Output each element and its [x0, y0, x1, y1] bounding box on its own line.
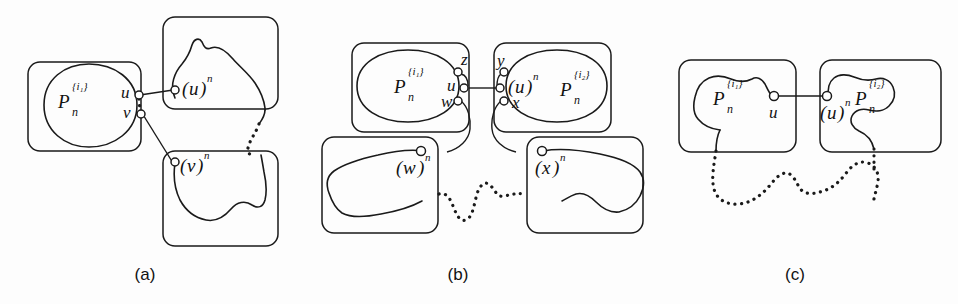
panel-c-caption: (c)	[785, 265, 805, 284]
panel-a-caption: (a)	[135, 265, 156, 284]
panel-a-node-u-copy	[171, 86, 179, 94]
panel-c-node-u	[770, 92, 779, 101]
panel-a-pn-sup: {i₁}	[72, 80, 88, 92]
panel-b-label-pn-i1: P n {i₁}	[393, 65, 424, 104]
panel-b-w-copy-sup: n	[425, 151, 431, 163]
panel-b-label-pn-i2: P n {i₂}	[559, 68, 590, 107]
panel-b-u-copy-close: )	[525, 76, 532, 98]
panel-a-node-u	[135, 91, 143, 99]
panel-b-w-copy-var: w	[403, 157, 416, 178]
panel-a-node-v-copy	[171, 158, 179, 166]
panel-a-label-u: u	[121, 83, 130, 102]
panel-c-blob-pn-i1-tail	[716, 130, 720, 151]
panel-c-pn1-base: P	[712, 88, 725, 109]
panel-a-label-v-copy: ( v ) n	[180, 149, 210, 177]
panel-a-edge-v	[142, 113, 173, 163]
panel-c-pn2-sup: {i₂}	[869, 77, 885, 89]
panel-b-caption: (b)	[448, 265, 469, 284]
panel-b-pn2-sup: {i₂}	[574, 68, 590, 80]
panel-b-node-u	[460, 84, 468, 92]
panel-b-pn1-sup: {i₁}	[408, 65, 424, 77]
panel-a-blob-u-n	[173, 39, 265, 110]
panel-b-node-u-copy	[496, 84, 504, 92]
panel-b-w-copy-close: )	[417, 157, 424, 179]
panel-b-pn2-sub: n	[574, 93, 580, 107]
panel-b-node-w	[454, 97, 462, 105]
panel-b-label-z: z	[460, 50, 468, 69]
panel-c-box-pn-i1	[679, 60, 796, 152]
panel-c-node-u-copy	[823, 92, 832, 101]
panel-b-pn2-base: P	[559, 79, 572, 100]
panel-a-v-copy-var: v	[187, 155, 196, 176]
panel-b-blob-pn-i1	[357, 50, 459, 122]
panel-b-u-copy-var: u	[515, 76, 525, 97]
panel-a-label-pn-i1: P n {i₁}	[57, 80, 88, 119]
panel-c-label-u: u	[769, 103, 778, 122]
panel-a-v-copy-close: )	[196, 155, 203, 177]
panel-a-pn-base: P	[57, 91, 70, 112]
panel-a: P n {i₁} u v ( u ) n ( v ) n (a)	[28, 17, 278, 284]
panel-c-dotted-connector	[713, 151, 878, 204]
panel-c-u-copy-close: )	[837, 102, 844, 124]
panel-a-pn-sub: n	[72, 105, 78, 119]
panel-b: P n {i₁} P n {i₂} z u w y x ( u ) n ( w …	[322, 43, 643, 284]
panel-a-edge-u	[140, 90, 173, 95]
panel-c-u-copy-var: u	[827, 102, 837, 123]
panel-b-node-x	[500, 97, 508, 105]
panel-c-pn2-base: P	[854, 88, 867, 109]
panel-a-label-u-copy: ( u ) n	[182, 72, 213, 100]
panel-a-u-copy-var: u	[189, 78, 199, 99]
panel-a-u-copy-sup: n	[207, 72, 213, 84]
figure-root: P n {i₁} u v ( u ) n ( v ) n (a)	[0, 0, 958, 304]
panel-a-node-v	[137, 110, 145, 118]
panel-b-x-copy-sup: n	[560, 151, 566, 163]
panel-a-u-copy-close: )	[199, 78, 206, 100]
panel-a-blob-u-n-tail	[259, 110, 265, 124]
panel-b-label-w: w	[441, 92, 453, 111]
panel-a-label-v: v	[123, 103, 131, 122]
panel-b-pn1-sub: n	[408, 90, 414, 104]
panel-a-v-copy-sup: n	[204, 149, 210, 161]
panel-c-pn1-sub: n	[727, 102, 733, 116]
panel-b-node-z	[454, 68, 462, 76]
panel-c-label-pn-i1: P n {i₁}	[712, 77, 743, 116]
panel-b-label-y: y	[495, 51, 505, 70]
panel-b-label-u-copy: ( u ) n	[508, 70, 539, 98]
panel-c-pn1-sup: {i₁}	[727, 77, 743, 89]
panel-b-node-x-copy	[538, 147, 547, 156]
panel-c-u-copy-sup: n	[845, 96, 851, 108]
panel-b-dotted-connector	[439, 183, 526, 220]
panel-b-label-w-copy: ( w ) n	[396, 151, 431, 179]
panel-b-pn1-base: P	[393, 76, 406, 97]
panel-b-x-copy-var: x	[541, 157, 551, 178]
panel-c-pn2-sub: n	[869, 102, 875, 116]
panel-b-x-copy-close: )	[552, 157, 559, 179]
panel-c: P n {i₁} u ( u ) n P n {i₂} (c)	[679, 60, 941, 284]
panel-b-u-copy-sup: n	[533, 70, 539, 82]
